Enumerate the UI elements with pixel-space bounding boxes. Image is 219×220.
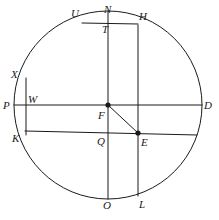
point-label-x: X <box>11 69 18 80</box>
top-chord-U-H <box>82 23 138 24</box>
radius-segment-F-E <box>108 105 138 133</box>
point-marker-e <box>135 130 140 135</box>
point-label-q: Q <box>97 136 105 147</box>
point-label-h: H <box>139 11 147 22</box>
point-label-f: F <box>98 110 105 121</box>
point-label-w: W <box>28 94 37 105</box>
point-label-u: U <box>71 8 79 19</box>
lower-chord-K-D <box>25 131 197 135</box>
geometry-canvas <box>0 0 219 220</box>
point-label-l: L <box>139 199 145 210</box>
geometry-figure: NUHTXPWFDKQEOL <box>0 0 219 220</box>
point-label-e: E <box>141 137 148 148</box>
point-label-o: O <box>103 200 111 211</box>
point-label-d: D <box>204 100 212 111</box>
point-label-n: N <box>104 4 111 15</box>
point-label-p: P <box>3 100 10 111</box>
point-marker-f <box>105 102 110 107</box>
point-label-k: K <box>12 133 19 144</box>
point-label-t: T <box>102 24 108 35</box>
